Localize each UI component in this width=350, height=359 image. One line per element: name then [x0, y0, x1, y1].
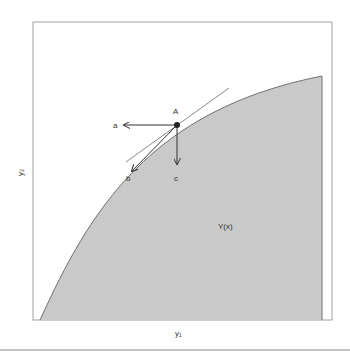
arrow-c-label: c — [174, 174, 178, 183]
y-axis-label: y₂ — [16, 169, 25, 176]
arrow-a-label: a — [113, 121, 118, 130]
point-a-label: A — [173, 107, 179, 116]
diagram-canvas: A a b c Y(x) y₁ y₂ — [0, 0, 350, 359]
region-label: Y(x) — [218, 222, 233, 231]
x-axis-label: y₁ — [175, 329, 182, 338]
arrow-b-label: b — [126, 174, 131, 183]
point-a-marker — [174, 122, 180, 128]
